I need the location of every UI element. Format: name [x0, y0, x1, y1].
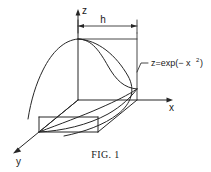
gaussian-profile-curve [78, 39, 137, 89]
equation-leader-line [137, 63, 148, 72]
figure-caption-text: FIG. 1 [91, 149, 120, 160]
equation-base-text: z=exp(− x [151, 58, 191, 68]
z-axis-label: z [82, 5, 87, 16]
z-axis-arrowhead [76, 9, 81, 16]
equation-label: z=exp(− x 2 ) [151, 57, 203, 68]
figure-caption: FIG. 1 [0, 149, 211, 160]
surface-left-edge-curve [28, 39, 78, 119]
dimension-arrow-left [78, 24, 84, 28]
dimension-arrow-right [131, 24, 137, 28]
gaussian-surface-diagram: z x y h z=exp(− x 2 ) [0, 0, 211, 172]
dimension-line-h [78, 20, 137, 33]
figure-container: z x y h z=exp(− x 2 ) FIG. 1 [0, 0, 211, 172]
construction-lines [78, 33, 137, 100]
x-axis-label: x [169, 102, 174, 113]
dimension-label-h: h [100, 14, 106, 25]
equation-close-paren: ) [200, 58, 203, 68]
